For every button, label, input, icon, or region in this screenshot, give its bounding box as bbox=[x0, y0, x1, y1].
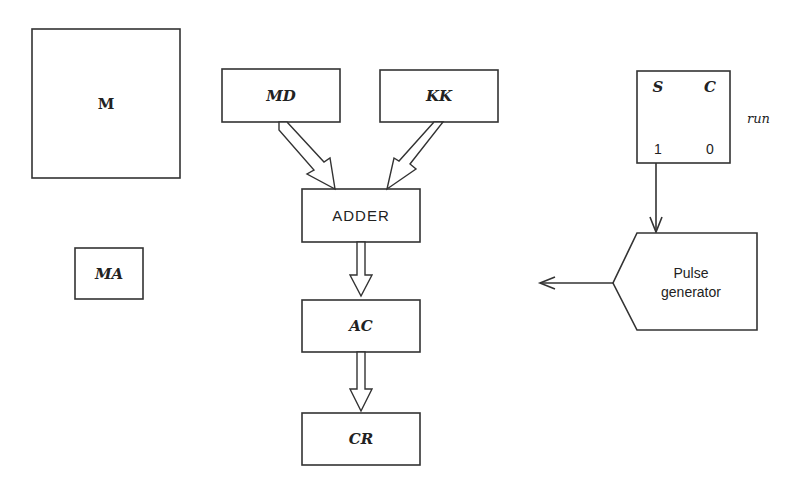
adder-block: ADDER bbox=[302, 189, 420, 242]
ac-to-cr-arrow bbox=[350, 352, 372, 411]
adder-to-ac-arrow bbox=[350, 242, 372, 296]
md-to-adder-arrow bbox=[279, 122, 335, 189]
pulse-generator-label-line2: generator bbox=[661, 284, 721, 300]
control-register-block: CR bbox=[302, 413, 420, 465]
flipflop-clear-label: C bbox=[704, 78, 716, 96]
run-to-pulse-arrow bbox=[650, 163, 662, 232]
pulse-generator-label-line1: Pulse bbox=[673, 265, 708, 281]
flipflop-set-label: S bbox=[653, 78, 664, 96]
keys-block: KK bbox=[380, 70, 498, 122]
adder-label: ADDER bbox=[332, 207, 390, 224]
memory-address-block: MA bbox=[75, 248, 143, 299]
flipflop-one-label: 1 bbox=[654, 141, 662, 157]
flipflop-zero-label: 0 bbox=[706, 141, 714, 157]
pulse-output-arrow bbox=[540, 277, 613, 289]
accumulator-block: AC bbox=[302, 300, 420, 352]
accumulator-label: AC bbox=[347, 317, 373, 335]
block-diagram: M MA MD KK ADDER AC CR bbox=[0, 0, 804, 490]
flipflop-name-label: run bbox=[747, 111, 770, 126]
memory-label: M bbox=[98, 95, 115, 113]
memory-block: M bbox=[32, 29, 180, 178]
memory-data-label: MD bbox=[265, 87, 296, 105]
pulse-generator-block: Pulse generator bbox=[613, 233, 757, 330]
control-register-label: CR bbox=[349, 430, 373, 448]
memory-address-label: MA bbox=[94, 265, 123, 283]
kk-to-adder-arrow bbox=[387, 122, 443, 189]
keys-label: KK bbox=[425, 87, 453, 105]
memory-data-block: MD bbox=[222, 69, 340, 122]
run-flipflop: S C 1 0 run bbox=[637, 71, 770, 163]
